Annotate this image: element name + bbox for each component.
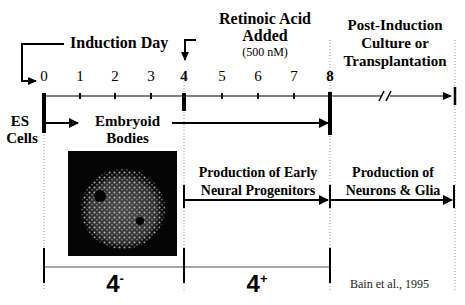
induction-day-label: Induction Day <box>70 35 168 51</box>
early-neural-label-1: Production of Early <box>186 166 330 180</box>
embryoid-bodies-label-1: Embryoid <box>85 114 170 129</box>
neurons-glia-label-2: Neurons & Glia <box>332 184 454 198</box>
citation: Bain et al., 1995 <box>350 278 429 290</box>
group-4-minus-sup: - <box>120 271 124 286</box>
group-4-plus-base: 4 <box>247 270 260 297</box>
neurons-glia-label-1: Production of <box>332 166 454 180</box>
tick-label-4: 4 <box>174 68 194 85</box>
post-induction-label-1: Post-Induction <box>335 18 455 33</box>
tick-label-6: 6 <box>248 68 268 85</box>
retinoic-acid-label-2: Added <box>205 28 325 44</box>
tick-label-5: 5 <box>212 68 232 85</box>
group-4-plus-sup: + <box>260 271 268 286</box>
tick-label-7: 7 <box>284 68 304 85</box>
tick-label-3: 3 <box>141 68 161 85</box>
group-4-plus-label: 4+ <box>232 272 282 296</box>
tick-label-8: 8 <box>320 68 340 85</box>
group-4-minus-label: 4- <box>90 272 140 296</box>
micrograph-cells <box>68 151 177 256</box>
axis-break-icon <box>379 91 391 101</box>
group-4-minus-base: 4 <box>106 270 119 297</box>
embryoid-bodies-label-2: Bodies <box>85 131 170 146</box>
es-cells-label-2: Cells <box>0 131 44 146</box>
retinoic-acid-arrow <box>185 40 196 60</box>
post-induction-label-3: Transplantation <box>335 54 455 69</box>
tick-label-0: 0 <box>34 68 54 85</box>
embryoid-body-micrograph <box>68 151 177 256</box>
retinoic-acid-label-1: Retinoic Acid <box>205 11 325 27</box>
post-induction-label-2: Culture or <box>335 36 455 51</box>
tick-label-2: 2 <box>105 68 125 85</box>
early-neural-label-2: Neural Progenitors <box>186 184 330 198</box>
tick-label-1: 1 <box>70 68 90 85</box>
es-cells-label-1: ES <box>0 114 40 129</box>
retinoic-acid-concentration: (500 nM) <box>205 46 325 58</box>
